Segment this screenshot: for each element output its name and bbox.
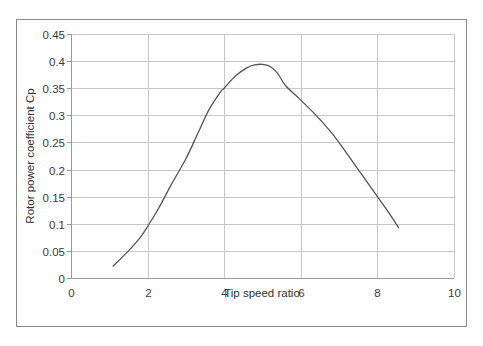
y-tick-label: 0.2 — [49, 165, 65, 177]
x-tick-label: 2 — [145, 287, 151, 299]
y-tick-label: 0.25 — [43, 137, 65, 149]
y-tick-label: 0.15 — [43, 192, 65, 204]
y-tick-label: 0 — [59, 273, 65, 285]
y-tick-label: 0.3 — [49, 110, 65, 122]
x-tick-label: 10 — [448, 287, 461, 299]
y-axis-title: Rotor power coefficient Cp — [24, 88, 36, 223]
y-tick-label: 0.1 — [49, 219, 65, 231]
y-tick-label: 0.4 — [49, 56, 66, 68]
x-tick-label: 8 — [374, 287, 380, 299]
y-tick-label: 0.45 — [43, 29, 65, 41]
y-tick-label: 0.05 — [43, 246, 65, 258]
y-tick-label: 0.35 — [43, 83, 65, 95]
chart-frame — [17, 20, 467, 327]
chart: 00.050.10.150.20.250.30.350.40.45 024681… — [0, 0, 483, 346]
x-axis-title: Tip speed ratio — [224, 287, 300, 299]
x-tick-label: 0 — [68, 287, 74, 299]
